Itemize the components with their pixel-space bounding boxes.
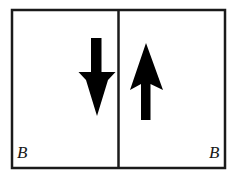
right-domain-field-label: B [209, 144, 219, 161]
left-domain-field-label: B [17, 144, 27, 161]
magnetic-domain-figure: B B [0, 0, 237, 179]
diagram-canvas [0, 0, 237, 179]
